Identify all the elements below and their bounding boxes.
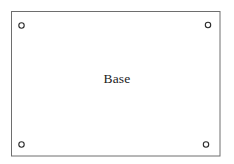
hole-bottom-left-icon [19, 142, 24, 147]
hole-bottom-right-icon [203, 142, 208, 147]
hole-top-left-icon [19, 23, 24, 28]
technical-drawing-canvas: Base [0, 0, 234, 164]
base-plate-label: Base [0, 71, 234, 86]
hole-top-right-icon [205, 22, 210, 27]
